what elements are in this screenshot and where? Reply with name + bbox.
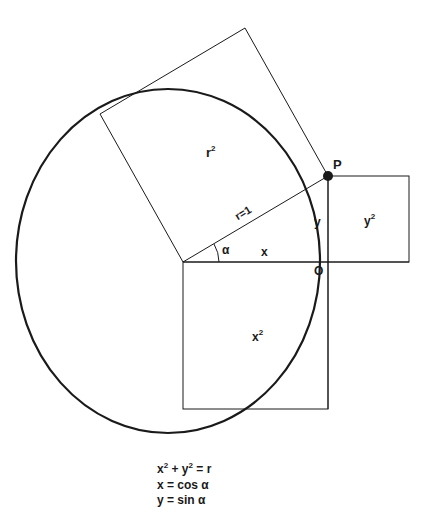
formula-exp1: 2 xyxy=(164,461,168,470)
formula-x: x xyxy=(157,462,164,476)
angle-arc xyxy=(214,244,219,262)
label-r-exp: 2 xyxy=(211,144,215,153)
label-r-squared: r2 xyxy=(206,146,216,159)
point-p-dot xyxy=(323,171,333,181)
formula-exp2: 2 xyxy=(189,461,193,470)
formula-cos: x = cos α xyxy=(157,478,211,494)
label-x2-base: x xyxy=(252,330,259,344)
label-origin: O xyxy=(314,265,323,277)
formula-plus-y: + y xyxy=(171,462,188,476)
label-y2-base: y xyxy=(364,214,371,228)
formula-pythagorean: x2 + y2 = r xyxy=(157,458,211,478)
unit-circle-diagram xyxy=(0,0,426,516)
label-x-side: x xyxy=(261,246,268,258)
label-point-p: P xyxy=(333,158,342,171)
formula-sin: y = sin α xyxy=(157,493,211,509)
formula-block: x2 + y2 = r x = cos α y = sin α xyxy=(157,458,211,509)
unit-circle xyxy=(16,89,320,433)
label-x2-exp: 2 xyxy=(259,328,263,337)
label-y-side: y xyxy=(314,216,321,228)
label-angle-alpha: α xyxy=(222,244,229,256)
label-x-squared: x2 xyxy=(252,330,263,343)
formula-equals-r: = r xyxy=(196,462,211,476)
label-y2-exp: 2 xyxy=(371,212,375,221)
label-y-squared: y2 xyxy=(364,214,375,227)
